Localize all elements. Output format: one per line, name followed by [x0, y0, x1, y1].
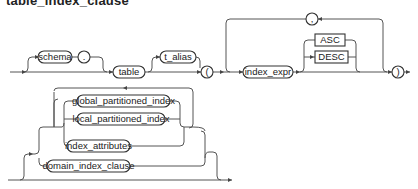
arrow-icon [388, 70, 392, 74]
node-index-attributes: index_attributes [65, 140, 132, 152]
arrow-icon [228, 178, 232, 182]
node-dot: . [78, 51, 90, 63]
arrow-icon [197, 70, 201, 74]
svg-text:table: table [119, 66, 140, 77]
svg-text:): ) [396, 66, 399, 77]
node-index-expr: index_expr [243, 66, 293, 78]
svg-text:global_partitioned_index: global_partitioned_index [72, 95, 175, 106]
node-table: table [113, 66, 145, 78]
node-desc: DESC [315, 51, 348, 63]
svg-text:.: . [83, 51, 86, 62]
node-schema: schema [38, 51, 72, 63]
arrow-icon [318, 17, 322, 21]
arrow-icon [296, 70, 300, 74]
svg-text:domain_index_clause: domain_index_clause [43, 160, 135, 171]
arrow-icon [220, 70, 224, 74]
svg-text:index_attributes: index_attributes [65, 140, 132, 151]
arrow-icon [109, 70, 113, 74]
svg-text:local_partitioned_index: local_partitioned_index [72, 113, 169, 124]
node-comma: , [306, 13, 318, 25]
arrow-icon [239, 70, 243, 74]
arrow-icon [310, 55, 314, 59]
node-global-partitioned-index: global_partitioned_index [72, 95, 175, 107]
arrow-icon [406, 70, 410, 74]
node-t-alias: t_alias [160, 51, 196, 63]
arrow-icon [156, 55, 160, 59]
svg-text:t_alias: t_alias [164, 51, 192, 62]
node-rparen: ) [392, 66, 404, 78]
node-local-partitioned-index: local_partitioned_index [72, 113, 169, 125]
arrow-icon [123, 86, 127, 90]
node-asc: ASC [315, 34, 345, 46]
syntax-diagram: schema . table t_alias ( index_expr ASC … [0, 0, 418, 189]
arrow-icon [29, 152, 33, 156]
svg-text:DESC: DESC [318, 51, 345, 62]
svg-text:schema: schema [38, 51, 72, 62]
node-domain-index-clause: domain_index_clause [43, 160, 135, 172]
main-track [10, 17, 410, 74]
svg-text:index_expr: index_expr [245, 66, 291, 77]
svg-text:,: , [311, 13, 314, 24]
svg-text:ASC: ASC [320, 34, 340, 45]
node-lparen: ( [201, 66, 213, 78]
